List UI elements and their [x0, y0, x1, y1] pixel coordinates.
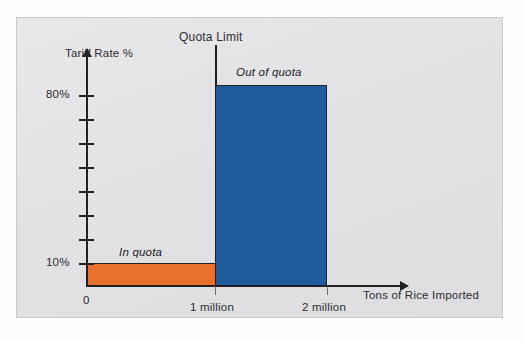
in-quota-annotation: In quota — [119, 246, 162, 258]
x-tick-label-2-million: 2 million — [302, 301, 346, 313]
y-tick-80 — [79, 95, 94, 97]
x-tick-label-0: 0 — [83, 294, 90, 306]
y-tick-50 — [79, 167, 94, 169]
y-tick-10 — [79, 263, 94, 265]
y-tick-70 — [79, 119, 94, 121]
y-tick-40 — [79, 191, 94, 193]
bar-in-quota[interactable] — [86, 263, 216, 286]
quota-limit-marker-line — [215, 45, 217, 87]
out-of-quota-annotation: Out of quota — [236, 66, 302, 78]
quota-limit-annotation: Quota Limit — [179, 30, 243, 44]
chart-canvas: Tariff Rate % Tons of Rice Imported 80% … — [17, 18, 502, 317]
y-axis-title: Tariff Rate % — [65, 47, 133, 59]
y-tick-20 — [79, 239, 94, 241]
x-axis-title: Tons of Rice Imported — [363, 289, 479, 301]
x-tick-2-million — [327, 286, 328, 295]
x-tick-label-1-million: 1 million — [190, 301, 234, 313]
screenshot-root: Tariff Rate % Tons of Rice Imported 80% … — [0, 0, 524, 342]
y-tick-60 — [79, 143, 94, 145]
x-axis-line — [86, 285, 401, 287]
y-tick-label-10: 10% — [46, 256, 70, 268]
y-tick-label-80: 80% — [46, 88, 70, 100]
y-tick-30 — [79, 215, 94, 217]
y-axis-line — [86, 57, 88, 287]
chart-plate: Tariff Rate % Tons of Rice Imported 80% … — [16, 17, 503, 318]
x-tick-1-million — [215, 286, 216, 295]
bar-out-of-quota[interactable] — [215, 85, 327, 286]
